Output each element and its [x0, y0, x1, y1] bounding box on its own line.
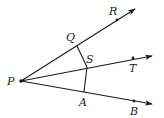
point-R: [116, 19, 119, 22]
points-group: [19, 19, 135, 103]
label-P: P: [6, 75, 15, 88]
label-A: A: [78, 96, 87, 109]
label-S: S: [86, 53, 94, 66]
label-R: R: [108, 5, 117, 18]
segment-SA: [84, 67, 87, 92]
point-P: [19, 79, 23, 83]
label-T: T: [129, 62, 138, 75]
labels-group: PQRSTAB: [6, 5, 138, 118]
point-T: [132, 57, 135, 60]
label-B: B: [129, 105, 138, 118]
point-B: [133, 100, 136, 103]
label-Q: Q: [66, 31, 75, 44]
geometry-diagram: PQRSTAB: [0, 0, 164, 118]
